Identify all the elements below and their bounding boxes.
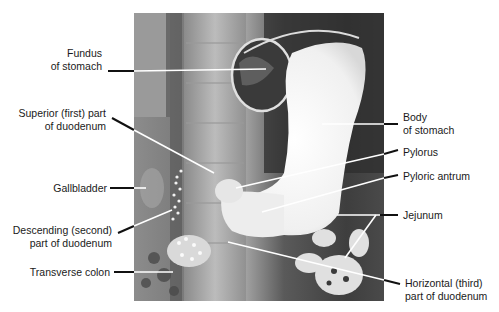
label-body-stomach: Body of stomach <box>403 111 454 136</box>
label-transverse-colon: Transverse colon <box>30 266 110 279</box>
label-fundus-line1: Fundus <box>51 47 102 60</box>
label-pylorus-line1: Pylorus <box>403 146 438 159</box>
label-superior-duodenum-line2: of duodenum <box>18 120 106 133</box>
leader-pylorus-outer <box>384 150 398 154</box>
label-descending-duodenum-line1: Descending (second) <box>13 224 112 237</box>
leader-superior-duodenum-outer <box>112 118 134 130</box>
label-descending-duodenum: Descending (second) part of duodenum <box>13 224 112 249</box>
label-pyloric-antrum-line1: Pyloric antrum <box>403 170 470 183</box>
label-pyloric-antrum: Pyloric antrum <box>403 170 470 183</box>
label-descending-duodenum-line2: part of duodenum <box>13 237 112 250</box>
radiograph-image <box>134 13 384 301</box>
anatomy-figure: Fundus of stomach Superior (first) part … <box>0 0 499 312</box>
label-body-stomach-line2: of stomach <box>403 124 454 137</box>
leader-horizontal-duodenum-outer <box>384 280 400 284</box>
label-pylorus: Pylorus <box>403 146 438 159</box>
leader-descending-duodenum-outer <box>118 226 134 233</box>
label-horizontal-duodenum-line1: Horizontal (third) <box>405 277 487 290</box>
label-jejunum: Jejunum <box>403 209 443 222</box>
label-gallbladder: Gallbladder <box>53 182 107 195</box>
label-horizontal-duodenum: Horizontal (third) part of duodenum <box>405 277 487 302</box>
label-transverse-colon-line1: Transverse colon <box>30 266 110 279</box>
label-fundus: Fundus of stomach <box>51 47 102 72</box>
label-body-stomach-line1: Body <box>403 111 454 124</box>
radiograph-rendering <box>134 13 384 301</box>
label-jejunum-line1: Jejunum <box>403 209 443 222</box>
label-fundus-line2: of stomach <box>51 60 102 73</box>
label-horizontal-duodenum-line2: part of duodenum <box>405 290 487 303</box>
leader-antrum-outer <box>384 175 398 178</box>
label-superior-duodenum-line1: Superior (first) part <box>18 107 106 120</box>
label-superior-duodenum: Superior (first) part of duodenum <box>18 107 106 132</box>
label-gallbladder-line1: Gallbladder <box>53 182 107 195</box>
